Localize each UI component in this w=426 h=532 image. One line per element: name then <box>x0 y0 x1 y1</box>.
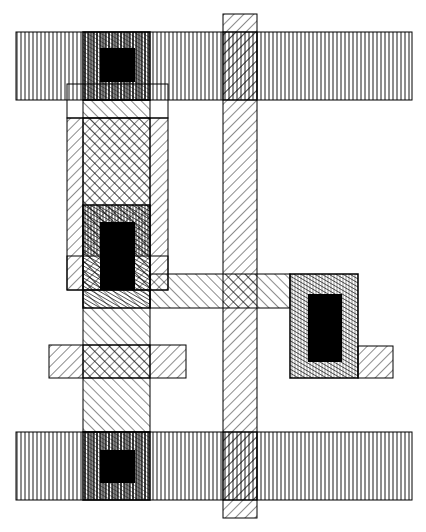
contact-cut-bottom <box>100 450 135 483</box>
contact-right <box>290 274 358 378</box>
poly-right-extension <box>358 346 393 378</box>
diffusion-horizontal <box>150 274 290 308</box>
contact-cut-middle <box>100 222 135 290</box>
contact-cut-right <box>308 294 342 362</box>
contact-top <box>83 32 150 100</box>
contact-cut-top <box>100 48 135 82</box>
poly-left-bar <box>49 345 186 378</box>
contact-bottom <box>83 432 150 500</box>
layout-diagram <box>0 0 426 532</box>
metal-bottom-rail <box>16 432 412 500</box>
metal-top-rail <box>16 32 412 100</box>
contact-middle <box>83 205 150 308</box>
